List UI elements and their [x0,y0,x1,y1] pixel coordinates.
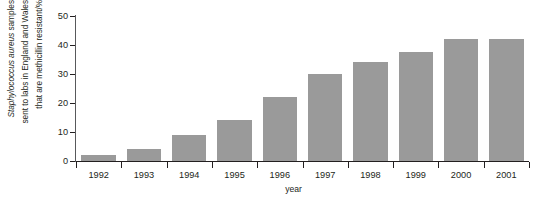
y-axis-title-samples: samples [6,0,16,33]
x-axis-tick [303,162,304,168]
x-axis-tick-label: 1992 [88,170,108,180]
x-axis-tick [393,162,394,168]
bar [172,135,206,161]
x-axis-tick [348,162,349,168]
x-axis-tick-label: 1998 [360,170,380,180]
bar [353,62,387,161]
bar [489,39,523,161]
x-axis-title-label: year [285,184,302,194]
x-axis-title: year [0,184,539,194]
bar [217,120,251,161]
y-axis-title-species: Staphylococcus aureus [6,33,16,118]
x-axis-tick [121,162,122,168]
bar-series [76,16,529,161]
x-axis-tick-label: 1996 [270,170,290,180]
y-axis-tick-label: 0 [44,156,68,166]
bar [81,155,115,161]
x-axis-tick-label: 2000 [451,170,471,180]
bar [263,97,297,161]
x-axis-tick [438,162,439,168]
bar [444,39,478,161]
x-axis-tick [212,162,213,168]
y-axis-tick-label: 30 [44,69,68,79]
x-axis-tick-label: 1993 [134,170,154,180]
x-axis-tick-label: 1999 [406,170,426,180]
y-axis-tick-label: 50 [44,11,68,21]
bar-chart-figure: Staphylococcus aureus samples sent to la… [0,0,539,201]
x-axis-tick-label: 1997 [315,170,335,180]
x-axis-tick [484,162,485,168]
bar [308,74,342,161]
x-axis-tick [76,162,77,168]
x-axis-tick-labels: 1992199319941995199619971998199920002001 [76,170,529,184]
bar [399,52,433,161]
y-axis-tick-label: 20 [44,98,68,108]
x-axis-tick [257,162,258,168]
x-axis-tick [167,162,168,168]
bar [127,149,161,161]
x-axis-tick-label: 1994 [179,170,199,180]
y-axis-tick-label: 10 [44,127,68,137]
x-axis-tick-label: 2001 [496,170,516,180]
x-axis-tick [529,162,530,168]
x-axis-tick-label: 1995 [224,170,244,180]
y-axis-tick-labels: 01020304050 [44,0,68,201]
y-axis-tick-label: 40 [44,40,68,50]
